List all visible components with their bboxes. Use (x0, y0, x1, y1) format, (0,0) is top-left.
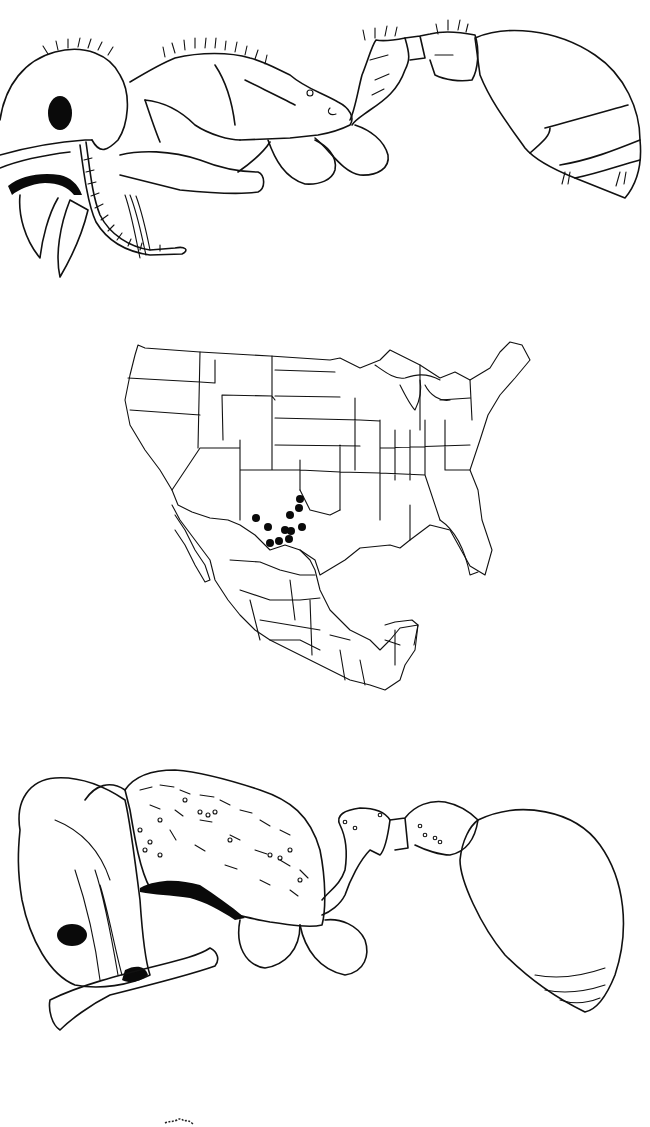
ant-lateral-panel (0, 0, 650, 300)
ant-lateral-illustration-icon (0, 0, 650, 300)
locality-marker (285, 535, 293, 543)
locality-markers (252, 495, 306, 547)
locality-marker (296, 495, 304, 503)
locality-marker (295, 504, 303, 512)
locality-marker (286, 511, 294, 519)
ant-oblique-panel (0, 750, 650, 1050)
ink-smudge (163, 1115, 203, 1127)
locality-marker (275, 537, 283, 545)
locality-marker (266, 539, 274, 547)
locality-marker (252, 514, 260, 522)
locality-marker (264, 523, 272, 531)
distribution-map-icon (0, 330, 650, 710)
smudge-icon (163, 1115, 203, 1127)
ant-oblique-illustration-icon (0, 750, 650, 1050)
locality-marker (287, 527, 295, 535)
locality-marker (298, 523, 306, 531)
distribution-map-panel (0, 330, 650, 710)
